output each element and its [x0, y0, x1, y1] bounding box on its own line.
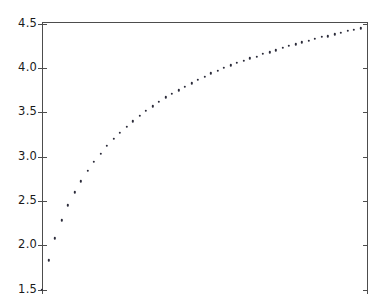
data-point: [41, 288, 43, 290]
data-point: [145, 109, 147, 111]
data-point: [125, 125, 127, 127]
data-point: [223, 67, 225, 69]
data-point: [93, 161, 95, 163]
data-point: [307, 39, 309, 41]
y-tick-label: 2.5: [18, 195, 37, 207]
data-point: [301, 41, 303, 43]
data-point: [294, 43, 296, 45]
data-point: [73, 191, 75, 193]
data-point: [132, 120, 134, 122]
data-point: [203, 76, 205, 78]
data-point: [151, 105, 153, 107]
data-point: [353, 29, 355, 31]
data-point: [47, 259, 49, 261]
y-tick-label: 4.0: [18, 62, 37, 74]
data-point: [197, 78, 199, 80]
data-point: [171, 93, 173, 95]
data-point: [164, 96, 166, 98]
data-point: [229, 64, 231, 66]
data-point: [80, 180, 82, 182]
y-tick-label: 3.0: [18, 151, 37, 163]
data-point: [320, 36, 322, 38]
data-point: [275, 49, 277, 51]
data-point: [119, 132, 121, 134]
data-point: [314, 38, 316, 40]
data-point: [177, 89, 179, 91]
data-point: [138, 115, 140, 117]
scatter-series: [42, 22, 367, 294]
data-point: [333, 33, 335, 35]
data-point: [281, 46, 283, 48]
data-point: [190, 82, 192, 84]
data-point: [210, 72, 212, 74]
data-point: [106, 145, 108, 147]
axis-spine-right: [367, 22, 368, 294]
data-point: [60, 219, 62, 221]
data-point: [340, 31, 342, 33]
data-point: [184, 85, 186, 87]
plot-axes: 1.52.02.53.03.54.04.5: [42, 22, 367, 294]
data-point: [67, 204, 69, 206]
data-point: [242, 60, 244, 62]
y-tick-label: 1.5: [18, 284, 37, 296]
data-point: [262, 53, 264, 55]
y-tick-label: 2.0: [18, 240, 37, 252]
data-point: [268, 51, 270, 53]
data-point: [236, 62, 238, 64]
data-point: [346, 30, 348, 32]
data-point: [288, 45, 290, 47]
data-point: [112, 138, 114, 140]
data-point: [216, 70, 218, 72]
data-point: [327, 35, 329, 37]
data-point: [99, 153, 101, 155]
data-point: [86, 170, 88, 172]
y-tick-label: 4.5: [18, 18, 37, 30]
data-point: [249, 57, 251, 59]
data-point: [54, 237, 56, 239]
data-point: [255, 55, 257, 57]
data-point: [359, 27, 361, 29]
data-point: [158, 101, 160, 103]
y-tick-label: 3.5: [18, 107, 37, 119]
